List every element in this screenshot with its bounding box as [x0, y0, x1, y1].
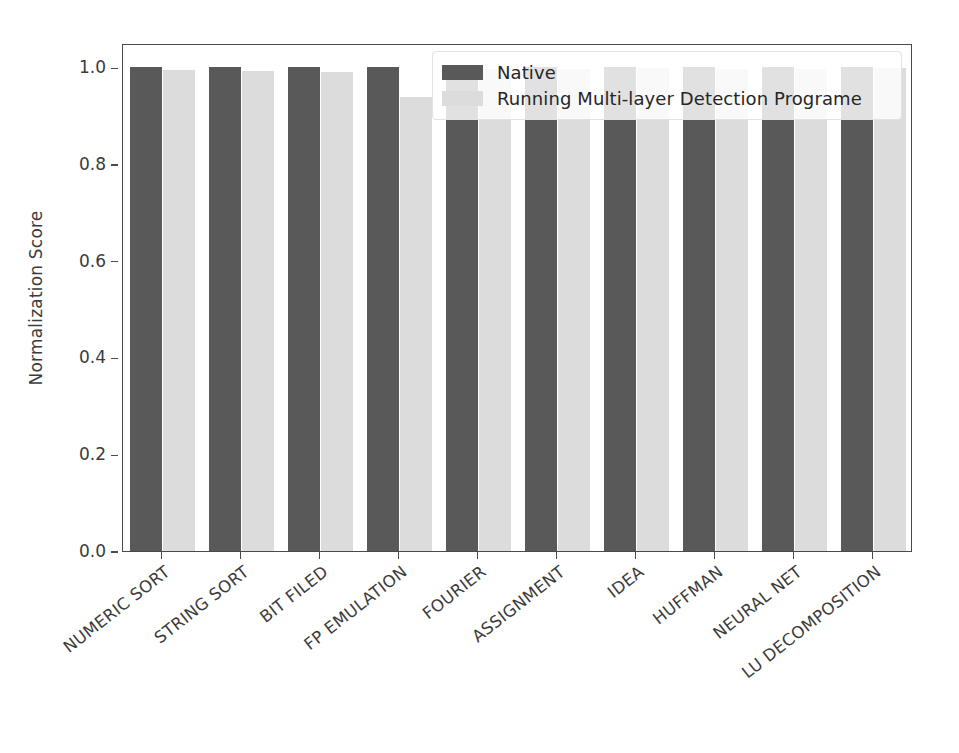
x-tick-mark: [161, 552, 162, 559]
x-tick-label: LU DECOMPOSITION: [738, 562, 884, 682]
bar-native: [209, 67, 241, 551]
legend-label-native: Native: [497, 62, 556, 83]
bar-chart-figure: Normalization Score 0.00.20.40.60.81.0 N…: [0, 0, 959, 753]
legend-label-detection: Running Multi-layer Detection Programe: [497, 88, 862, 109]
bar-native: [762, 67, 794, 551]
y-tick-mark: [111, 164, 118, 165]
bar-detection: [558, 69, 590, 551]
x-tick-mark: [872, 552, 873, 559]
bar-native: [288, 67, 320, 551]
bar-detection: [242, 71, 274, 551]
legend-item-native: Native: [442, 59, 892, 85]
bar-native: [367, 67, 399, 551]
y-tick-mark: [111, 455, 118, 456]
bar-native: [683, 67, 715, 551]
bar-native: [446, 67, 478, 551]
y-tick-label: 1.0: [79, 57, 106, 77]
x-tick-label: BIT FILED: [256, 562, 331, 627]
y-tick-label: 0.2: [79, 444, 106, 464]
y-tick-mark: [111, 261, 118, 262]
x-tick-mark: [477, 552, 478, 559]
y-tick-label: 0.8: [79, 154, 106, 174]
bar-detection: [795, 69, 827, 551]
x-tick-mark: [240, 552, 241, 559]
legend-swatch-native: [442, 65, 483, 80]
legend-swatch-detection: [442, 91, 483, 106]
bar-native: [525, 67, 557, 551]
bar-native: [841, 67, 873, 551]
y-tick-mark: [111, 68, 118, 69]
bar-detection: [874, 68, 906, 551]
y-tick-label: 0.0: [79, 541, 106, 561]
plot-area: [122, 44, 912, 552]
y-tick-label: 0.4: [79, 347, 106, 367]
x-tick-mark: [319, 552, 320, 559]
bar-detection: [716, 69, 748, 551]
bar-native: [604, 67, 636, 551]
x-tick-mark: [793, 552, 794, 559]
y-tick-label: 0.6: [79, 251, 106, 271]
bar-detection: [479, 69, 511, 551]
chart-legend: Native Running Multi-layer Detection Pro…: [432, 51, 902, 120]
x-tick-mark: [556, 552, 557, 559]
y-axis-label: Normalization Score: [26, 44, 52, 552]
legend-item-detection: Running Multi-layer Detection Programe: [442, 85, 892, 111]
x-tick-mark: [635, 552, 636, 559]
bar-native: [130, 67, 162, 551]
x-tick-label: FOURIER: [418, 562, 489, 623]
x-tick-mark: [714, 552, 715, 559]
y-tick-mark: [111, 358, 118, 359]
x-tick-label: NUMERIC SORT: [59, 562, 173, 657]
bar-detection: [637, 68, 669, 551]
bar-detection: [400, 97, 432, 551]
bar-detection: [321, 72, 353, 551]
bar-detection: [163, 70, 195, 551]
x-tick-mark: [398, 552, 399, 559]
y-tick-mark: [111, 551, 118, 552]
x-tick-label: HUFFMAN: [649, 562, 726, 628]
x-tick-label: IDEA: [604, 562, 648, 602]
